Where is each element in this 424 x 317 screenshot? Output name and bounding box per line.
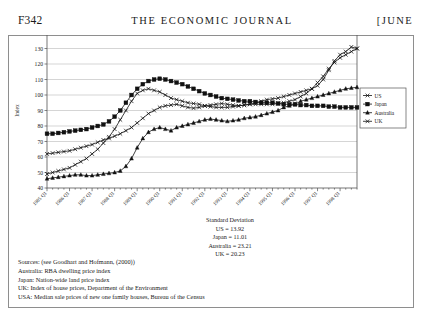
- y-tick-label: 60: [37, 154, 43, 160]
- stddev-row-us: US = 13.92: [150, 225, 310, 234]
- y-axis-title-label: Index: [14, 104, 20, 117]
- series-australia: [45, 85, 359, 180]
- x-tick-label: 1992 Q1: [190, 190, 206, 206]
- series-us: [45, 45, 359, 156]
- y-tick-label: 90: [37, 108, 43, 114]
- stddev-title: Standard Deviation: [150, 216, 310, 225]
- legend-label: Australia: [375, 110, 395, 116]
- stddev-row-australia: Australia = 23.21: [150, 242, 310, 251]
- legend-label: US: [375, 93, 382, 99]
- standard-deviation-block: Standard Deviation US = 13.92 Japan = 11…: [150, 216, 310, 259]
- x-tick-label: 1995 Q1: [257, 190, 273, 206]
- sources-line-japan: Japan: Nation-wide land price index: [18, 276, 408, 285]
- sources-block: Sources: (see Goodhart and Hofmann, (200…: [18, 258, 408, 302]
- x-tick-label: 1994 Q1: [235, 190, 251, 206]
- chart-region: 405060708090100110120130140 1985 Q11986 …: [8, 35, 414, 215]
- y-tick-label: 120: [35, 61, 44, 67]
- stddev-row-japan: Japan = 11.01: [150, 233, 310, 242]
- x-tick-label: 1991 Q1: [167, 190, 183, 206]
- legend-label: Japan: [375, 101, 388, 107]
- x-tick-label: 1986 Q1: [54, 190, 70, 206]
- chart-legend: USJapanAustraliaUK: [360, 88, 406, 128]
- y-axis-title: Index: [14, 104, 20, 117]
- sources-line-uk: UK: Index of house prices, Department of…: [18, 284, 408, 293]
- y-axis-tick-labels: 405060708090100110120130140: [35, 35, 44, 191]
- y-tick-label: 70: [37, 139, 43, 145]
- x-tick-label: 1998 Q1: [325, 190, 341, 206]
- y-tick-label: 50: [37, 170, 43, 176]
- y-tick-label: 110: [35, 77, 43, 83]
- line-chart: 405060708090100110120130140 1985 Q11986 …: [8, 35, 414, 215]
- y-tick-label: 130: [35, 46, 44, 52]
- sources-line-header: Sources: (see Goodhart and Hofmann, (200…: [18, 258, 408, 267]
- plot-area-border: [47, 35, 357, 188]
- running-head: F342 THE ECONOMIC JOURNAL [JUNE: [0, 14, 424, 32]
- y-tick-label: 100: [35, 92, 44, 98]
- x-tick-label: 1985 Q1: [32, 190, 48, 206]
- x-tick-label: 1996 Q1: [280, 190, 296, 206]
- x-tick-label: 1987 Q1: [77, 190, 93, 206]
- x-tick-label: 1989 Q1: [122, 190, 138, 206]
- x-tick-label: 1997 Q1: [302, 190, 318, 206]
- x-axis-tick-labels: 1985 Q11986 Q11987 Q11988 Q11989 Q11990 …: [32, 190, 341, 206]
- journal-title: THE ECONOMIC JOURNAL: [0, 15, 424, 26]
- sources-line-usa: USA: Median sale prices of new one famil…: [18, 293, 408, 302]
- x-tick-label: 1993 Q1: [212, 190, 228, 206]
- x-tick-label: 1990 Q1: [145, 190, 161, 206]
- sources-line-australia: Australia: RBA dwelling price index: [18, 267, 408, 276]
- y-tick-label: 80: [37, 123, 43, 129]
- y-tick-label: 40: [37, 185, 43, 191]
- x-tick-label: 1988 Q1: [100, 190, 116, 206]
- legend-label: UK: [375, 118, 383, 124]
- y-tick-label: 140: [35, 35, 44, 36]
- data-series-layer: [45, 45, 359, 180]
- issue-month: [JUNE: [377, 15, 413, 26]
- series-uk: [45, 47, 359, 176]
